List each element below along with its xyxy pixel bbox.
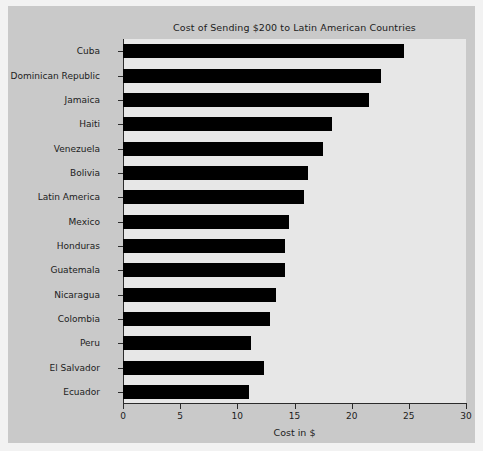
bar [123, 166, 308, 180]
bar [123, 142, 323, 156]
bar [123, 239, 285, 253]
x-axis-tick-label: 30 [460, 411, 471, 421]
x-axis-tick-label: 0 [120, 411, 126, 421]
bar [123, 385, 249, 399]
bar [123, 93, 369, 107]
x-axis-tick [295, 404, 296, 409]
bar [123, 117, 332, 131]
x-axis-tick-label: 5 [177, 411, 183, 421]
x-axis-tick [180, 404, 181, 409]
chart-title: Cost of Sending $200 to Latin American C… [123, 22, 466, 33]
x-axis-tick-label: 25 [403, 411, 414, 421]
bar [123, 361, 264, 375]
bar [123, 263, 285, 277]
y-axis-tick-label: Nicaragua [54, 290, 100, 300]
y-axis-tick-label: Mexico [69, 217, 100, 227]
x-axis-tick [466, 404, 467, 409]
chart-figure: Cost of Sending $200 to Latin American C… [8, 6, 475, 443]
x-axis-tick [352, 404, 353, 409]
bar [123, 336, 251, 350]
y-axis-tick-label: Haiti [79, 119, 100, 129]
bar [123, 44, 404, 58]
chart-screenshot: Cost of Sending $200 to Latin American C… [0, 0, 483, 451]
x-axis-tick [409, 404, 410, 409]
y-axis-tick-label: Ecuador [63, 387, 100, 397]
y-axis-tick-label: Colombia [58, 314, 100, 324]
y-axis-tick-label: Dominican Republic [11, 71, 100, 81]
y-axis-tick-label: Honduras [57, 241, 100, 251]
x-axis-tick-label: 20 [346, 411, 357, 421]
y-axis-tick-label: Venezuela [54, 144, 100, 154]
x-axis-label: Cost in $ [123, 427, 466, 438]
y-axis-tick-label: El Salvador [49, 363, 100, 373]
bar [123, 69, 381, 83]
y-axis-tick-label: Peru [80, 338, 100, 348]
x-axis-tick [123, 404, 124, 409]
bar [123, 288, 276, 302]
y-axis-tick-label: Jamaica [65, 95, 100, 105]
bar [123, 190, 304, 204]
bar [123, 215, 289, 229]
x-axis-tick-label: 15 [289, 411, 300, 421]
y-axis-tick-label: Bolivia [70, 168, 100, 178]
y-axis-tick-label: Guatemala [50, 265, 100, 275]
y-axis-tick-label: Latin America [38, 192, 100, 202]
bar [123, 312, 270, 326]
y-axis-tick-label: Cuba [77, 46, 100, 56]
x-axis-tick-label: 10 [232, 411, 243, 421]
x-axis-tick [237, 404, 238, 409]
